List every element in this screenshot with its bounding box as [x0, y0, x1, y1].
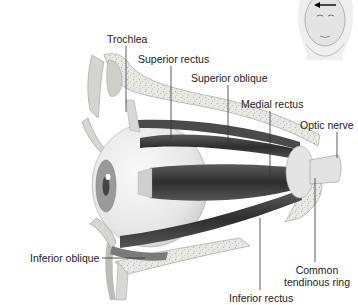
label-medial-rectus: Medial rectus [241, 98, 303, 110]
iris-highlight [106, 174, 111, 180]
medial-rectus-muscle [150, 164, 300, 201]
label-optic-nerve: Optic nerve [300, 119, 354, 131]
label-superior-rectus: Superior rectus [138, 53, 209, 65]
label-trochlea: Trochlea [107, 33, 147, 45]
label-inferior-rectus: Inferior rectus [229, 292, 293, 304]
medial-rectus-tendon [138, 168, 152, 198]
label-common-tendinous-ring: Common tendinous ring [281, 264, 353, 288]
head-orientation-inset [298, 0, 353, 60]
label-common-line1: Common [281, 264, 353, 276]
orbit-floor-bone [105, 238, 250, 300]
label-inferior-oblique: Inferior oblique [30, 252, 99, 264]
label-superior-oblique: Superior oblique [191, 72, 267, 84]
label-common-line2: tendinous ring [281, 276, 353, 288]
inferior-oblique-muscle [110, 246, 168, 261]
